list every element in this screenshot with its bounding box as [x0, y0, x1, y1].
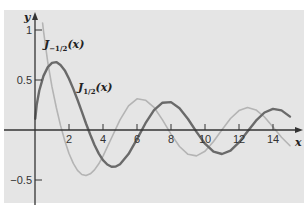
x-tick-label: 6 [134, 133, 140, 145]
x-tick-label: 8 [168, 133, 174, 145]
y-tick-label: −0.5 [10, 174, 32, 186]
x-axis-label: x [294, 136, 302, 149]
x-tick-label: 10 [199, 133, 211, 145]
x-tick-label: 4 [100, 133, 106, 145]
bessel-chart: 2468101214 10.5−0.5 x y J−1/2(x) J1/2(x) [0, 0, 308, 209]
y-tick-label: 0.5 [17, 74, 32, 86]
x-tick-label: 12 [233, 133, 245, 145]
x-tick-label: 14 [267, 133, 279, 145]
y-tick-label: 1 [26, 24, 32, 36]
x-tick-label: 2 [66, 133, 72, 145]
